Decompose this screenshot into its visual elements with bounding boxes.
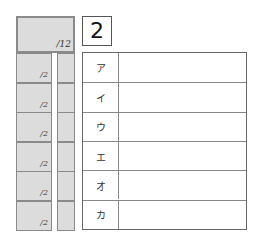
answer-row: イ: [83, 82, 246, 111]
answer-field[interactable]: [118, 201, 246, 229]
sub-score-mark-cell: [57, 112, 75, 142]
sub-score-cell: /2: [16, 53, 52, 83]
answer-row: エ: [83, 141, 246, 170]
answer-field[interactable]: [118, 53, 246, 82]
sub-score-label: /2: [40, 218, 48, 227]
sub-score-label: /2: [40, 188, 48, 197]
sub-score-cell: /2: [16, 171, 52, 201]
answer-field[interactable]: [118, 83, 246, 111]
sub-score-mark-cell: [57, 171, 75, 201]
sub-score-label: /2: [40, 129, 48, 138]
sub-score-mark-cell: [57, 83, 75, 113]
sub-score-mark-cell: [57, 53, 75, 83]
answer-row: ア: [83, 53, 246, 82]
sub-score-cell: /2: [16, 112, 52, 142]
answer-field[interactable]: [118, 142, 246, 170]
answer-row: ウ: [83, 112, 246, 141]
sub-score-label: /2: [40, 70, 48, 79]
sub-score-cell: /2: [16, 201, 52, 231]
question-number-box: 2: [82, 16, 112, 46]
answer-key-label: ウ: [83, 113, 119, 141]
answer-table: アイウエオカ: [82, 52, 247, 230]
answer-key-label: オ: [83, 171, 119, 199]
answer-key-label: カ: [83, 201, 119, 229]
answer-key-label: エ: [83, 142, 119, 170]
sub-score-mark-cell: [57, 201, 75, 231]
answer-row: カ: [83, 200, 246, 229]
answer-key-label: イ: [83, 83, 119, 111]
answer-field[interactable]: [118, 171, 246, 199]
sub-score-cell: /2: [16, 83, 52, 113]
sub-score-label: /2: [40, 100, 48, 109]
sub-score-cell: /2: [16, 142, 52, 172]
answer-row: オ: [83, 170, 246, 199]
total-score-label: /12: [57, 39, 71, 49]
total-score-box: /12: [16, 16, 75, 53]
sub-score-mark-cell: [57, 142, 75, 172]
answer-key-label: ア: [83, 53, 119, 82]
sub-score-label: /2: [40, 159, 48, 168]
answer-field[interactable]: [118, 113, 246, 141]
